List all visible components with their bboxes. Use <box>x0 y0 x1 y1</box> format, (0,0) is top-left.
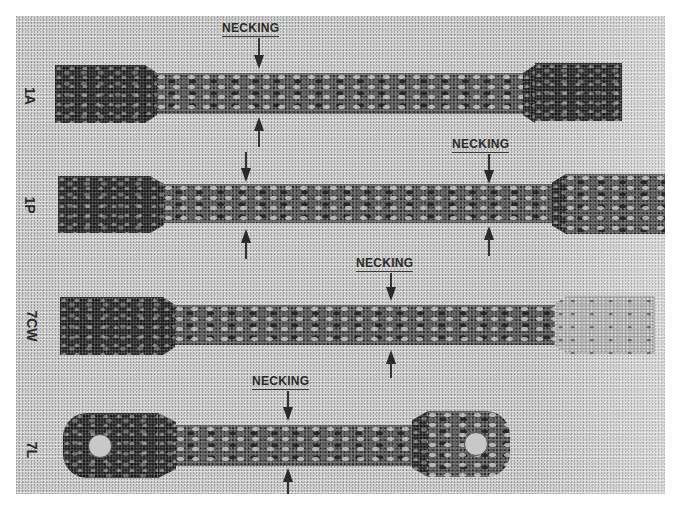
specimen-1p-left-shoulder <box>150 176 164 233</box>
necking-label-7l: NECKING <box>252 375 309 390</box>
specimen-7l-gauge <box>176 425 416 466</box>
arrow-down-icon <box>254 38 264 69</box>
arrow-down-icon <box>283 391 293 421</box>
arrow-down-icon <box>241 152 251 182</box>
specimen-7l-right-shoulder <box>412 411 428 477</box>
necking-label-1p: NECKING <box>452 138 509 153</box>
arrow-up-icon <box>254 117 264 147</box>
specimen-1p-right-grip <box>566 174 665 234</box>
arrow-down-icon <box>484 154 494 184</box>
specimen-label-7l: 7L <box>24 430 40 470</box>
specimen-7cw-gauge <box>175 305 555 345</box>
specimen-1a-left-shoulder <box>145 65 157 123</box>
specimen-7l-left-shoulder <box>158 413 176 478</box>
specimen-1p-gauge <box>164 184 552 223</box>
specimen-7cw-right-shoulder <box>555 296 567 354</box>
specimen-7l-right-hole <box>464 432 488 456</box>
arrow-up-icon <box>386 350 396 378</box>
specimen-7cw-left-grip <box>60 297 163 355</box>
necking-label-7cw: NECKING <box>356 257 413 272</box>
arrow-up-icon <box>283 468 293 494</box>
specimen-label-1a: 1A <box>22 76 38 116</box>
specimen-1a-gauge <box>157 73 523 114</box>
specimen-1a-right-grip <box>535 63 622 121</box>
specimen-1p-left-grip <box>58 176 150 233</box>
specimen-label-7cw: 7CW <box>24 306 40 346</box>
necking-label-1a: NECKING <box>222 22 279 37</box>
specimen-7cw-left-shoulder <box>163 297 175 355</box>
specimen-1p-right-shoulder <box>552 174 566 234</box>
specimen-7cw-right-grip <box>567 296 655 354</box>
specimen-label-1p: 1P <box>22 185 38 225</box>
arrow-up-icon <box>241 229 251 259</box>
specimen-1a-right-shoulder <box>523 65 535 123</box>
specimen-1a-left-grip <box>55 65 145 123</box>
arrow-down-icon <box>386 273 396 301</box>
arrow-up-icon <box>484 226 494 256</box>
specimen-7l-left-hole <box>88 434 112 458</box>
